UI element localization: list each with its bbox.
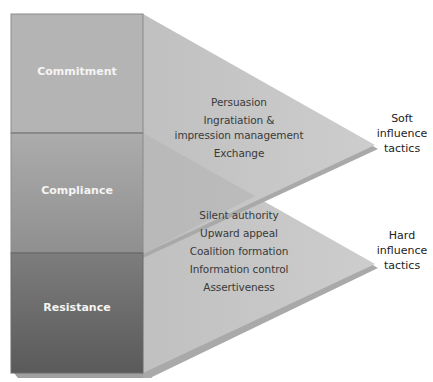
tactic-assertiveness: Assertiveness — [164, 278, 314, 296]
level-commitment: Commitment — [11, 65, 143, 78]
soft-influence-label: Soft influence tactics — [372, 111, 432, 156]
soft-tactics-list: Persuasion Ingratiation & impression man… — [164, 93, 314, 162]
hard-influence-label: Hard influence tactics — [372, 228, 432, 273]
level-resistance: Resistance — [11, 301, 143, 314]
tactic-coalition-formation: Coalition formation — [164, 242, 314, 260]
soft-title-line1: Soft — [372, 111, 432, 126]
influence-tactics-diagram: Commitment Compliance Resistance Persuas… — [0, 0, 433, 382]
box-bottom-shadow — [14, 373, 150, 378]
tactic-upward-appeal: Upward appeal — [164, 224, 314, 242]
soft-title-line3: tactics — [372, 141, 432, 156]
hard-title-line3: tactics — [372, 258, 432, 273]
tactic-impression-management: impression management — [164, 126, 314, 144]
tactic-exchange: Exchange — [164, 144, 314, 162]
hard-title-line2: influence — [372, 243, 432, 258]
hard-tactics-list: Silent authority Upward appeal Coalition… — [164, 206, 314, 296]
tactic-persuasion: Persuasion — [164, 93, 314, 111]
soft-title-line2: influence — [372, 126, 432, 141]
hard-title-line1: Hard — [372, 228, 432, 243]
tactic-information-control: Information control — [164, 260, 314, 278]
level-compliance: Compliance — [11, 184, 143, 197]
tactic-silent-authority: Silent authority — [164, 206, 314, 224]
